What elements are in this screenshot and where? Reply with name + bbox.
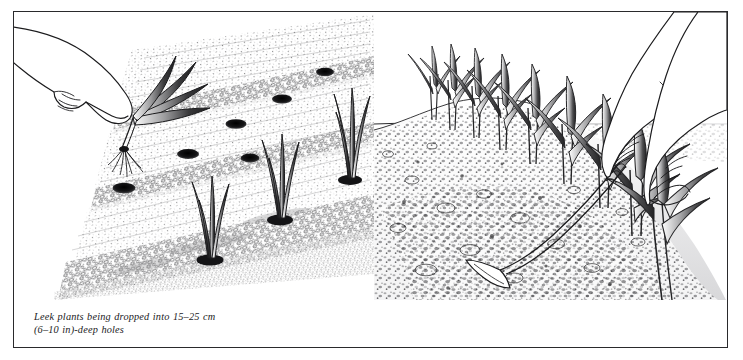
illustration-plate: Leek plants being dropped into 15–25 cm … bbox=[13, 11, 728, 348]
dibber-hole bbox=[316, 68, 334, 76]
dibber-hole bbox=[272, 94, 292, 103]
dibber-hole bbox=[177, 149, 199, 159]
plate-inner: Leek plants being dropped into 15–25 cm … bbox=[14, 12, 727, 347]
figure-right bbox=[374, 12, 727, 300]
dibber-hole bbox=[226, 119, 247, 129]
caption-left: Leek plants being dropped into 15–25 cm … bbox=[34, 311, 294, 336]
dibber-hole bbox=[241, 154, 260, 163]
panel-right: Soil drawn up around the plants helps to… bbox=[374, 12, 727, 347]
figure-left bbox=[14, 12, 374, 300]
panel-left: Leek plants being dropped into 15–25 cm … bbox=[14, 12, 374, 347]
left-illustration bbox=[14, 12, 374, 300]
dibber-hole bbox=[113, 183, 136, 193]
right-illustration bbox=[374, 12, 727, 300]
